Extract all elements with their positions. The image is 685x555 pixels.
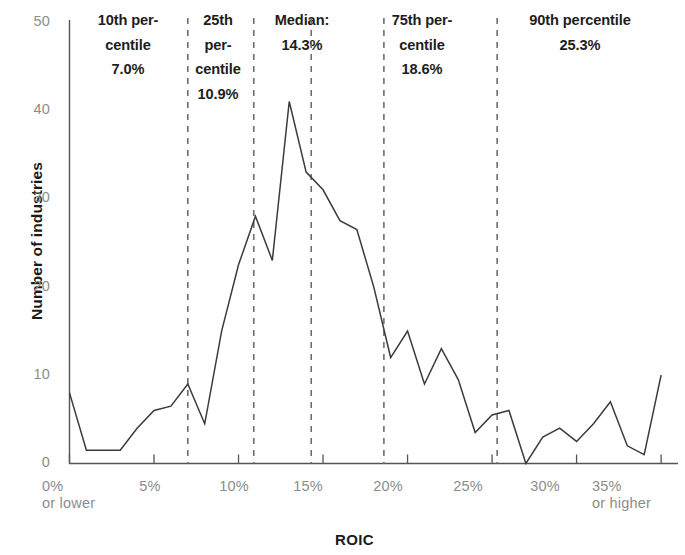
data-series-line: [70, 101, 662, 463]
percentile-dashed-lines: [188, 18, 497, 464]
roic-distribution-chart: Number of industries 50 40 30 20 10 0 0%…: [0, 0, 685, 555]
axis-lines: [69, 20, 678, 464]
x-axis-tick-marks: [70, 455, 662, 464]
plot-area: [0, 0, 685, 555]
